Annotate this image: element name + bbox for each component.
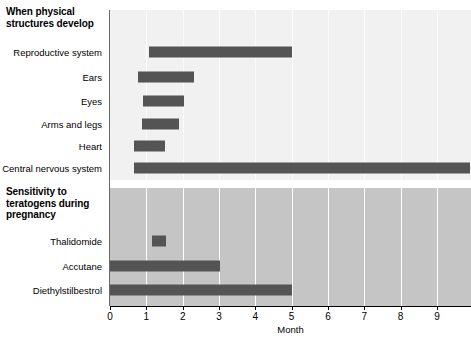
gridline-5 bbox=[292, 188, 293, 306]
gridline-9 bbox=[437, 188, 438, 306]
section-title-teratogen-sensitivity-line3: pregnancy bbox=[6, 209, 56, 221]
panel-physical-structures bbox=[110, 10, 471, 180]
plot-left-divider bbox=[109, 10, 110, 306]
x-tick-8 bbox=[401, 306, 402, 310]
x-tick-4 bbox=[255, 306, 256, 310]
x-tick-label-1: 1 bbox=[144, 311, 150, 322]
row-label-eyes: Eyes bbox=[81, 96, 102, 107]
x-tick-label-9: 9 bbox=[434, 311, 440, 322]
x-tick-label-7: 7 bbox=[362, 311, 368, 322]
bar-accutane bbox=[110, 261, 220, 272]
row-label-diethylstilbestrol: Diethylstilbestrol bbox=[33, 285, 102, 296]
row-label-arms-and-legs: Arms and legs bbox=[41, 119, 102, 130]
x-tick-label-8: 8 bbox=[398, 311, 404, 322]
gridline-3 bbox=[219, 10, 220, 180]
gridline-7 bbox=[364, 10, 365, 180]
teratogen-timeline-chart: When physical structures develop Reprodu… bbox=[0, 0, 471, 338]
x-axis-line bbox=[110, 306, 471, 307]
row-label-reproductive-system: Reproductive system bbox=[13, 47, 102, 58]
bar-thalidomide bbox=[152, 236, 166, 247]
x-tick-label-2: 2 bbox=[180, 311, 186, 322]
row-label-heart: Heart bbox=[79, 141, 102, 152]
x-tick-7 bbox=[364, 306, 365, 310]
x-axis-title: Month bbox=[110, 324, 471, 335]
bar-reproductive-system bbox=[149, 47, 292, 58]
section-title-teratogen-sensitivity-line2: teratogens during bbox=[6, 198, 89, 210]
gridline-5 bbox=[292, 10, 293, 180]
x-tick-5 bbox=[292, 306, 293, 310]
x-tick-0 bbox=[110, 306, 111, 310]
x-tick-1 bbox=[146, 306, 147, 310]
gridline-9 bbox=[437, 10, 438, 180]
gridline-8 bbox=[401, 10, 402, 180]
gridline-6 bbox=[328, 188, 329, 306]
x-tick-9 bbox=[437, 306, 438, 310]
gridline-6 bbox=[328, 10, 329, 180]
gridline-8 bbox=[401, 188, 402, 306]
section-title-teratogen-sensitivity-line1: Sensitivity to bbox=[6, 186, 67, 198]
bar-diethylstilbestrol bbox=[110, 285, 292, 296]
bar-ears bbox=[138, 72, 194, 83]
gridline-7 bbox=[364, 188, 365, 306]
panel-teratogen-sensitivity bbox=[110, 188, 471, 306]
x-tick-2 bbox=[183, 306, 184, 310]
row-label-thalidomide: Thalidomide bbox=[50, 236, 102, 247]
x-tick-label-5: 5 bbox=[289, 311, 295, 322]
row-label-ears: Ears bbox=[82, 72, 102, 83]
x-tick-label-4: 4 bbox=[253, 311, 259, 322]
bar-arms-and-legs bbox=[142, 119, 179, 130]
section-title-physical-structures-line1: When physical bbox=[6, 6, 75, 18]
gridline-4 bbox=[255, 10, 256, 180]
x-tick-6 bbox=[328, 306, 329, 310]
x-tick-label-6: 6 bbox=[325, 311, 331, 322]
bar-heart bbox=[134, 141, 165, 152]
bar-central-nervous-system bbox=[134, 163, 470, 174]
row-label-accutane: Accutane bbox=[62, 261, 102, 272]
row-label-column: When physical structures develop Reprodu… bbox=[0, 0, 108, 338]
x-tick-label-0: 0 bbox=[107, 311, 113, 322]
bar-eyes bbox=[143, 96, 184, 107]
x-tick-3 bbox=[219, 306, 220, 310]
row-label-central-nervous-system: Central nervous system bbox=[2, 163, 102, 174]
section-title-physical-structures-line2: structures develop bbox=[6, 18, 94, 30]
x-tick-label-3: 3 bbox=[216, 311, 222, 322]
